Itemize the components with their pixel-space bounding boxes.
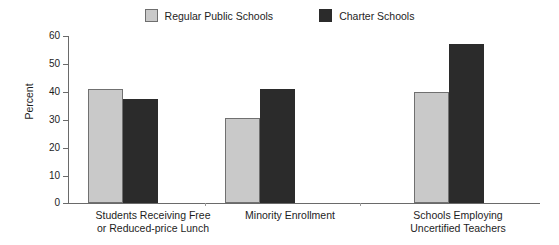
bar-charter-schools-group-3 [449, 44, 484, 203]
chart-legend: Regular Public Schools Charter Schools [0, 9, 559, 22]
y-axis-tick-labels: 60 50 40 30 20 10 0 [30, 0, 60, 245]
x-group-label-line-2: Uncertified Teachers [368, 222, 548, 235]
bar-chart-figure: Regular Public Schools Charter Schools 6… [0, 0, 559, 245]
y-tick-label-20: 20 [34, 143, 60, 153]
x-group-label-line-1: Minority Enrollment [215, 209, 365, 222]
bar-regular-public-schools-group-2 [225, 118, 260, 203]
y-tick-label-0: 0 [34, 198, 60, 208]
x-group-label-minority-enrollment: Minority Enrollment [215, 209, 365, 222]
y-tick-label-40: 40 [34, 87, 60, 97]
bar-regular-public-schools-group-1 [88, 89, 123, 203]
y-tick-label-10: 10 [34, 171, 60, 181]
bar-charter-schools-group-1 [123, 99, 158, 203]
x-axis-line [68, 203, 540, 204]
legend-entry-regular-public-schools: Regular Public Schools [145, 9, 274, 22]
legend-label-charter-schools: Charter Schools [339, 10, 414, 22]
bar-charter-schools-group-2 [260, 89, 295, 203]
y-tick-label-50: 50 [34, 59, 60, 69]
y-axis-title: Percent [24, 67, 35, 137]
y-tick-0 [63, 203, 68, 204]
x-axis-separator-1 [205, 203, 206, 206]
legend-entry-charter-schools: Charter Schools [319, 9, 414, 22]
x-axis-separator-2 [360, 203, 361, 206]
y-tick-label-30: 30 [34, 115, 60, 125]
bar-regular-public-schools-group-3 [414, 92, 449, 203]
x-group-label-schools-employing-uncertified-teachers: Schools Employing Uncertified Teachers [368, 209, 548, 235]
legend-swatch-dark-square-icon [319, 9, 332, 22]
x-group-label-line-1: Schools Employing [368, 209, 548, 222]
legend-swatch-light-gray-square-icon [145, 9, 158, 22]
legend-label-regular-public-schools: Regular Public Schools [165, 10, 274, 22]
plot-area [68, 36, 538, 203]
x-group-label-line-2: or Reduced-price Lunch [58, 222, 248, 235]
y-tick-label-60: 60 [34, 31, 60, 41]
